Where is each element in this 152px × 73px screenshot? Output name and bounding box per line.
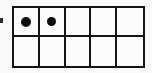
counter-dot-icon xyxy=(47,17,56,26)
ten-frame-cell-r1c3[interactable] xyxy=(66,8,92,37)
ten-frame-cell-r1c2[interactable] xyxy=(40,8,66,37)
ten-frame-grid xyxy=(12,6,145,68)
ten-frame-cell-r1c5[interactable] xyxy=(117,8,143,37)
ten-frame-figure xyxy=(0,0,152,73)
ten-frame-cell-r2c2[interactable] xyxy=(40,37,66,66)
ten-frame-cell-r2c1[interactable] xyxy=(14,37,40,66)
counter-dot-icon xyxy=(21,17,31,27)
scan-speck-artifact xyxy=(0,18,3,23)
ten-frame-cell-r1c4[interactable] xyxy=(91,8,117,37)
ten-frame-cell-r1c1[interactable] xyxy=(14,8,40,37)
ten-frame-cell-r2c4[interactable] xyxy=(91,37,117,66)
ten-frame-cell-r2c3[interactable] xyxy=(66,37,92,66)
ten-frame-cell-r2c5[interactable] xyxy=(117,37,143,66)
